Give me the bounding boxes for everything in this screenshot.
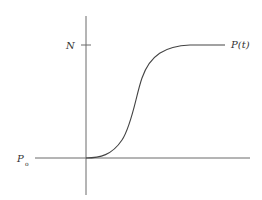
curve-name-label: P(t): [230, 39, 250, 50]
initial-value-label: P: [16, 153, 24, 164]
carrying-capacity-label: N: [65, 40, 76, 51]
logistic-curve: [86, 45, 225, 158]
logistic-growth-diagram: N P(t) P o: [0, 0, 262, 200]
initial-value-subscript: o: [25, 160, 29, 167]
